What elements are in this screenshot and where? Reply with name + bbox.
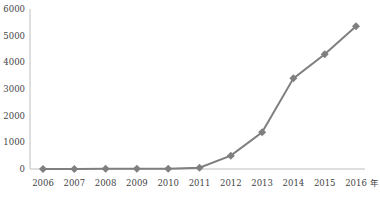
- diamond-marker: [39, 165, 47, 173]
- x-tick-label: 2010: [157, 178, 179, 188]
- y-tick-label: 4000: [3, 57, 25, 67]
- x-tick-label: 2007: [63, 178, 85, 188]
- y-tick-label: 3000: [3, 84, 25, 94]
- diamond-marker: [164, 165, 172, 173]
- diamond-marker: [196, 164, 204, 172]
- x-tick-label: 2016: [345, 178, 367, 188]
- diamond-marker: [133, 165, 141, 173]
- line-chart: 0100020003000400050006000 20062007200820…: [0, 0, 380, 198]
- x-tick-label: 2012: [220, 178, 242, 188]
- x-axis-label: 年: [370, 178, 379, 188]
- x-tick-label: 2013: [251, 178, 273, 188]
- x-tick-label: 2014: [283, 178, 305, 188]
- y-tick-label: 6000: [3, 4, 25, 14]
- x-tick-label: 2008: [95, 178, 117, 188]
- x-tick-label: 2015: [314, 178, 336, 188]
- x-axis: 2006200720082009201020112012201320142015…: [30, 169, 379, 188]
- y-axis: 0100020003000400050006000: [3, 4, 30, 174]
- y-tick-label: 1000: [3, 137, 25, 147]
- x-tick-label: 2006: [32, 178, 54, 188]
- y-tick-label: 5000: [3, 31, 25, 41]
- series-line: [43, 26, 356, 169]
- x-tick-label: 2011: [189, 178, 211, 188]
- diamond-marker: [102, 165, 110, 173]
- diamond-marker: [70, 165, 78, 173]
- plot-area: [39, 22, 360, 173]
- y-tick-label: 2000: [3, 111, 25, 121]
- x-tick-label: 2009: [126, 178, 148, 188]
- y-tick-label: 0: [20, 164, 25, 174]
